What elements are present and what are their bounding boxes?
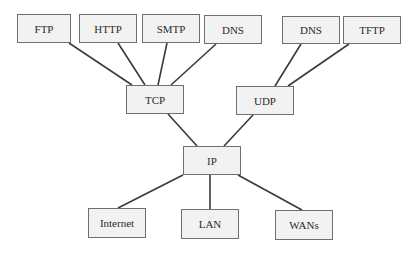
edge-ip-internet	[118, 175, 183, 208]
node-label: Internet	[100, 217, 134, 229]
node-label: TFTP	[359, 24, 385, 36]
node-label: DNS	[300, 24, 322, 36]
node-label: IP	[207, 155, 217, 167]
node-dns2: DNS	[282, 16, 340, 44]
edge-dns1-tcp	[171, 44, 216, 85]
node-tcp: TCP	[126, 85, 184, 114]
node-label: WANs	[289, 219, 318, 231]
node-http: HTTP	[79, 14, 137, 43]
node-label: UDP	[254, 95, 276, 107]
node-udp: UDP	[236, 86, 294, 115]
node-smtp: SMTP	[142, 14, 200, 43]
node-tftp: TFTP	[343, 16, 401, 44]
node-label: TCP	[145, 94, 165, 106]
node-label: SMTP	[157, 23, 186, 35]
node-ftp: FTP	[17, 14, 71, 43]
edge-udp-ip	[224, 115, 253, 146]
node-ip: IP	[183, 146, 241, 175]
edge-smtp-tcp	[158, 43, 167, 85]
edge-ip-wans	[238, 175, 302, 210]
node-label: FTP	[35, 23, 54, 35]
node-label: LAN	[199, 218, 222, 230]
node-dns1: DNS	[204, 15, 262, 44]
node-label: HTTP	[94, 23, 122, 35]
node-internet: Internet	[88, 208, 146, 238]
edge-tcp-ip	[168, 114, 197, 146]
node-label: DNS	[222, 24, 244, 36]
node-wans: WANs	[275, 210, 333, 240]
node-lan: LAN	[181, 209, 239, 239]
